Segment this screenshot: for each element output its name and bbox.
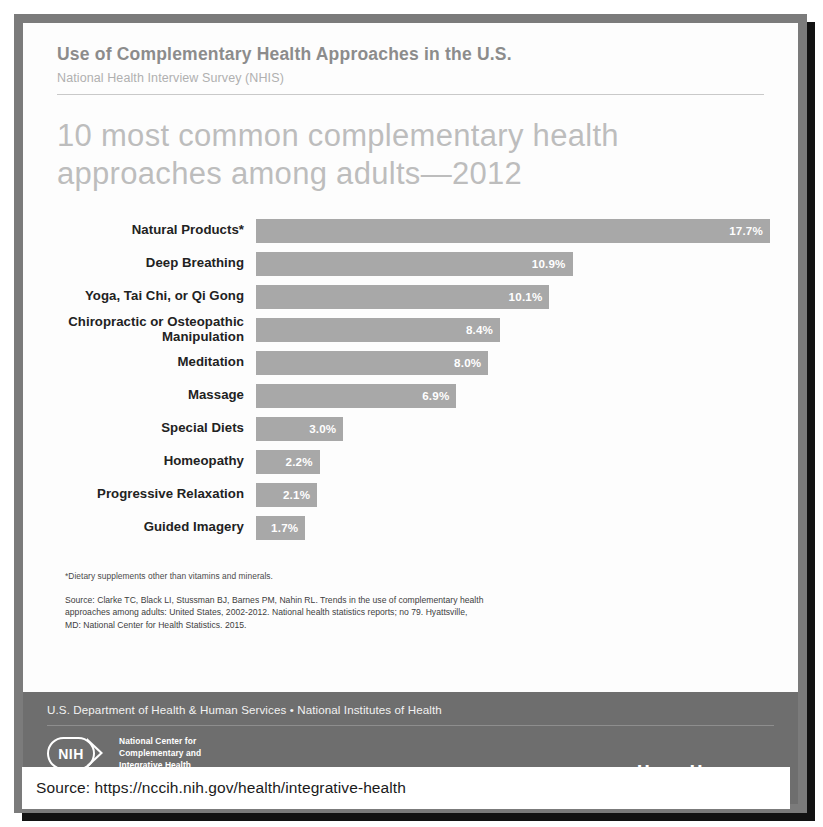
bar-label-text: Chiropractic or Osteopathic — [68, 314, 244, 329]
notes-block: *Dietary supplements other than vitamins… — [23, 571, 798, 631]
bar-value-label: 10.1% — [509, 290, 543, 303]
bar-label-text-line2: Manipulation — [162, 329, 244, 344]
bar-value-label: 2.2% — [286, 455, 313, 468]
poster-content: Use of Complementary Health Approaches i… — [23, 23, 798, 804]
bar-chart: Natural Products* 17.7% Deep Breathing 1… — [23, 219, 798, 549]
bar-label: Natural Products* — [41, 223, 256, 238]
bar-label-text: Deep Breathing — [146, 255, 244, 270]
bar-fill: 2.1% — [256, 483, 317, 507]
poster-header: Use of Complementary Health Approaches i… — [23, 23, 798, 95]
bar-fill: 1.7% — [256, 516, 305, 540]
bar-row: Meditation 8.0% — [41, 351, 770, 375]
bar-row: Massage 6.9% — [41, 384, 770, 408]
bar-fill: 17.7% — [256, 219, 770, 243]
source-caption: Source: https://nccih.nih.gov/health/int… — [22, 767, 790, 809]
bar-label-text: Homeopathy — [164, 453, 244, 468]
bar-label: Chiropractic or Osteopathic Manipulation — [41, 315, 256, 345]
bar-fill: 2.2% — [256, 450, 320, 474]
bar-value-label: 8.0% — [454, 356, 481, 369]
bar-value-label: 3.0% — [309, 422, 336, 435]
bar-row: Special Diets 3.0% — [41, 417, 770, 441]
bar-track: 1.7% — [256, 516, 770, 540]
bar-value-label: 8.4% — [466, 323, 493, 336]
source-citation: Source: Clarke TC, Black LI, Stussman BJ… — [65, 594, 485, 631]
nih-logo: NIH — [47, 737, 109, 770]
bar-label: Guided Imagery — [41, 520, 256, 535]
bar-label-text: Progressive Relaxation — [97, 486, 244, 501]
bar-track: 2.2% — [256, 450, 770, 474]
nih-center-name-line1: National Center for — [119, 736, 201, 748]
bar-label: Special Diets — [41, 421, 256, 436]
bar-row: Progressive Relaxation 2.1% — [41, 483, 770, 507]
bar-row: Yoga, Tai Chi, or Qi Gong 10.1% — [41, 285, 770, 309]
bar-label-text: Special Diets — [161, 420, 244, 435]
nih-center-name-line2: Complementary and — [119, 748, 201, 760]
bar-fill: 3.0% — [256, 417, 343, 441]
bar-track: 17.7% — [256, 219, 770, 243]
bar-value-label: 1.7% — [271, 521, 298, 534]
bar-label-text: Guided Imagery — [144, 519, 244, 534]
bar-fill: 6.9% — [256, 384, 456, 408]
bar-fill: 8.0% — [256, 351, 488, 375]
bar-value-label: 6.9% — [422, 389, 449, 402]
bar-label: Progressive Relaxation — [41, 487, 256, 502]
footer-agency-line: U.S. Department of Health & Human Servic… — [23, 692, 798, 716]
bar-track: 6.9% — [256, 384, 770, 408]
bar-fill: 10.1% — [256, 285, 549, 309]
bar-track: 10.9% — [256, 252, 770, 276]
bar-value-label: 10.9% — [532, 257, 566, 270]
bar-row: Homeopathy 2.2% — [41, 450, 770, 474]
bar-fill: 10.9% — [256, 252, 573, 276]
bar-value-label: 2.1% — [283, 488, 310, 501]
footnote-text: *Dietary supplements other than vitamins… — [65, 571, 758, 581]
poster-frame: Use of Complementary Health Approaches i… — [14, 14, 807, 813]
bar-label: Yoga, Tai Chi, or Qi Gong — [41, 289, 256, 304]
bar-label-text: Yoga, Tai Chi, or Qi Gong — [85, 288, 244, 303]
bar-label-text: Natural Products* — [132, 222, 244, 237]
bar-track: 8.0% — [256, 351, 770, 375]
bar-track: 3.0% — [256, 417, 770, 441]
bar-value-label: 17.7% — [729, 224, 763, 237]
bar-row: Guided Imagery 1.7% — [41, 516, 770, 540]
nih-logo-badge: NIH — [47, 737, 95, 770]
bar-label-text: Massage — [188, 387, 244, 402]
header-title: Use of Complementary Health Approaches i… — [57, 45, 764, 64]
bar-label-text: Meditation — [178, 354, 244, 369]
scanned-slide-page: Use of Complementary Health Approaches i… — [0, 0, 823, 827]
bar-track: 2.1% — [256, 483, 770, 507]
bar-label: Massage — [41, 388, 256, 403]
bar-row: Deep Breathing 10.9% — [41, 252, 770, 276]
bar-fill: 8.4% — [256, 318, 500, 342]
bar-track: 10.1% — [256, 285, 770, 309]
bar-row: Chiropractic or Osteopathic Manipulation… — [41, 318, 770, 342]
bar-label: Homeopathy — [41, 454, 256, 469]
header-subtitle: National Health Interview Survey (NHIS) — [57, 71, 764, 85]
bar-row: Natural Products* 17.7% — [41, 219, 770, 243]
bar-label: Deep Breathing — [41, 256, 256, 271]
bar-track: 8.4% — [256, 318, 770, 342]
chart-title: 10 most common complementary health appr… — [23, 95, 791, 193]
bar-label: Meditation — [41, 355, 256, 370]
